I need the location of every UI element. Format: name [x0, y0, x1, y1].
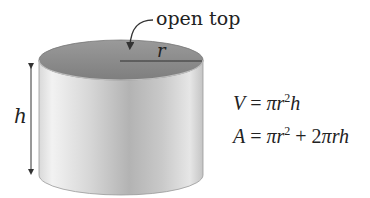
- pi-symbol: π: [267, 125, 277, 147]
- cylinder-diagram: [0, 0, 370, 198]
- open-top-label: open top: [156, 7, 240, 29]
- area-formula: A = πr2 + 2πrh: [233, 125, 349, 148]
- volume-symbol: V: [233, 92, 245, 114]
- area-symbol: A: [233, 125, 245, 147]
- equals-sign: =: [245, 92, 266, 114]
- pi-symbol: π: [267, 92, 277, 114]
- radius-label: r: [157, 40, 166, 61]
- volume-formula: V = πr2h: [233, 92, 300, 115]
- rh-variables: rh: [332, 125, 349, 147]
- equals-sign: =: [245, 125, 266, 147]
- height-label: h: [14, 104, 27, 128]
- h-variable: h: [290, 92, 300, 114]
- pi-symbol: π: [322, 125, 332, 147]
- plus-two: + 2: [290, 125, 321, 147]
